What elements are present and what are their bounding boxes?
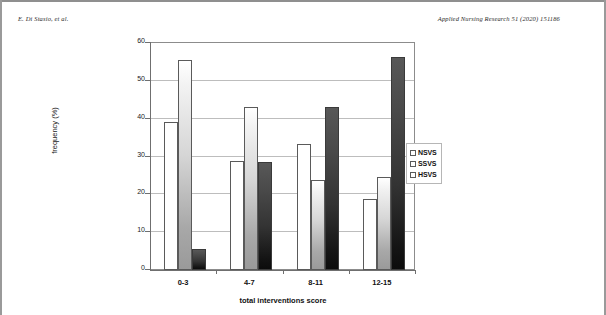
y-tick: 20: [112, 188, 145, 198]
legend-item-label: HSVS: [418, 171, 437, 178]
y-tick: 40: [112, 113, 145, 123]
y-tick-label: 0: [117, 264, 145, 271]
x-tick-mark: [349, 270, 350, 274]
y-tick: 60: [112, 37, 145, 47]
y-tick-mark: [145, 80, 150, 81]
legend-item-label: NSVS: [418, 149, 437, 156]
journal-page: E. Di Stasio, et al. Applied Nursing Res…: [0, 0, 606, 315]
bar-hsvs: [391, 57, 405, 270]
bar-hsvs: [192, 249, 206, 270]
x-tick-mark: [415, 270, 416, 274]
light-gradient-bar-swatch: [410, 161, 416, 167]
y-tick: 0: [112, 264, 145, 274]
chart-legend: NSVSSSVSHSVS: [406, 143, 442, 184]
bar-group: [217, 43, 283, 270]
bar-ssvs: [244, 107, 258, 270]
bar-group: [284, 43, 350, 270]
y-tick: 30: [112, 151, 145, 161]
bar-nsvs: [230, 161, 244, 270]
y-tick-label: 50: [117, 75, 145, 82]
x-tick-label: 12-15: [349, 278, 415, 287]
bar-group: [151, 43, 217, 270]
y-tick-label: 10: [117, 226, 145, 233]
y-tick-label: 40: [117, 113, 145, 120]
x-tick-label: 0-3: [150, 278, 216, 287]
bar-nsvs: [363, 199, 377, 270]
bar-nsvs: [164, 122, 178, 270]
y-tick-mark: [145, 231, 150, 232]
x-tick-label: 8-11: [283, 278, 349, 287]
y-tick-mark: [145, 156, 150, 157]
y-tick: 50: [112, 75, 145, 85]
y-tick-label: 30: [117, 151, 145, 158]
x-axis-label: total interventions score: [150, 296, 416, 305]
bar-hsvs: [325, 107, 339, 270]
legend-item-nsvs[interactable]: NSVS: [410, 147, 437, 158]
y-tick: 10: [112, 226, 145, 236]
bar-groups: [151, 43, 414, 270]
legend-item-hsvs[interactable]: HSVS: [410, 169, 437, 180]
y-tick-label: 20: [117, 188, 145, 195]
white-bar-swatch: [410, 150, 416, 156]
x-tick-mark: [216, 270, 217, 274]
y-tick-mark: [145, 118, 150, 119]
bar-ssvs: [178, 60, 192, 270]
x-tick-label: 4-7: [216, 278, 282, 287]
y-tick-mark: [145, 193, 150, 194]
bar-ssvs: [311, 180, 325, 270]
bar-ssvs: [377, 177, 391, 270]
y-tick-mark: [145, 42, 150, 43]
bar-chart: 0102030405060 frequency (%) 0-34-78-1112…: [0, 0, 606, 315]
x-tick-mark: [283, 270, 284, 274]
legend-item-label: SSVS: [418, 160, 436, 167]
dark-gradient-bar-swatch: [410, 172, 416, 178]
legend-item-ssvs[interactable]: SSVS: [410, 158, 437, 169]
bar-nsvs: [297, 144, 311, 270]
bar-hsvs: [258, 162, 272, 270]
y-axis-label: frequency (%): [50, 71, 59, 191]
y-tick-label: 60: [117, 37, 145, 44]
